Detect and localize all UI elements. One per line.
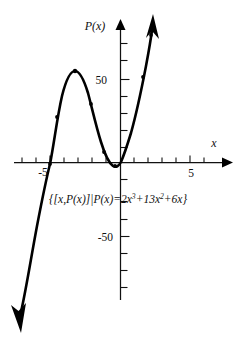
curve-arrowhead-bottom-left [11,303,26,333]
cubic-curve-group [11,14,159,333]
y-tick-label-minus-50: -50 [98,231,114,243]
y-axis-ticks [121,44,130,288]
formula-part-close: +6x} [164,193,188,205]
x-tick-label-minus-5: -5 [38,166,48,178]
y-tick-label-50: 50 [96,74,108,86]
x-axis-label: x [210,136,217,150]
set-builder-formula: {[x,P(x)]|P(x)=2x3+13x2+6x} [49,192,187,206]
formula-part-open: {[x,P(x)]|P(x)=2x [49,193,133,206]
formula-part-mid: +13x [136,193,161,205]
graph-figure: P(x) x 50 -50 -5 5 {[x,P(x)]|P(x)=2x3+13… [0,0,236,337]
y-axis-label: P(x) [84,19,106,33]
y-axis-arrowhead [116,19,126,30]
x-axis-arrowhead [222,158,233,168]
cartesian-plot: P(x) x 50 -50 -5 5 {[x,P(x)]|P(x)=2x3+13… [0,0,236,337]
x-tick-label-5: 5 [188,167,194,179]
plotted-points [48,33,153,168]
